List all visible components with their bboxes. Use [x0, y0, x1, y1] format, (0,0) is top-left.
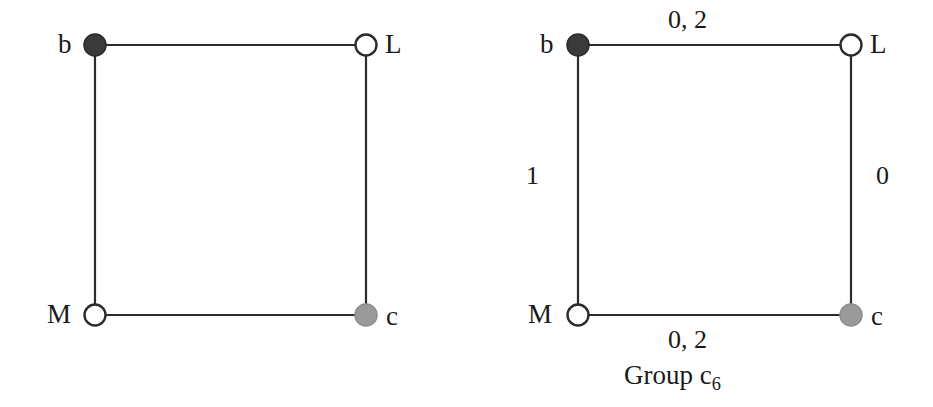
node-label-b: b — [540, 31, 554, 58]
node-label-b: b — [58, 31, 72, 58]
caption-text: Group c — [624, 360, 712, 390]
node-M[interactable] — [568, 305, 589, 326]
node-c[interactable] — [840, 304, 862, 326]
node-label-L: L — [870, 31, 887, 58]
node-label-c: c — [871, 303, 883, 330]
graph-panel-left: b L M c — [0, 0, 466, 407]
node-label-M: M — [47, 301, 71, 328]
caption-subscript: 6 — [712, 374, 721, 394]
node-label-M: M — [528, 301, 552, 328]
figure-canvas: b L M c b L M c 0, 2 1 0 0, 2 Group c6 — [0, 0, 933, 407]
graph-svg-left — [0, 0, 466, 407]
node-c[interactable] — [355, 304, 377, 326]
node-label-c: c — [386, 303, 398, 330]
node-M[interactable] — [85, 305, 106, 326]
node-L[interactable] — [356, 35, 377, 56]
edge-label-right: 0 — [876, 163, 889, 189]
edge-label-left: 1 — [526, 163, 539, 189]
panel-caption: Group c6 — [624, 362, 721, 394]
node-b[interactable] — [567, 34, 589, 56]
node-label-L: L — [385, 31, 402, 58]
edge-label-bottom: 0, 2 — [668, 327, 707, 353]
node-L[interactable] — [841, 35, 862, 56]
node-b[interactable] — [84, 34, 106, 56]
edge-label-top: 0, 2 — [668, 7, 707, 33]
graph-panel-right: b L M c 0, 2 1 0 0, 2 Group c6 — [466, 0, 933, 407]
